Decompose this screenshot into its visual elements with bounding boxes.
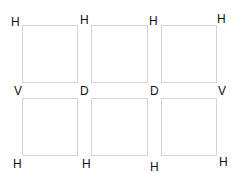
box-r1-c2 (91, 25, 148, 83)
box-r2-c2 (91, 98, 148, 156)
label-top-2: H (80, 14, 89, 26)
label-mid-2: D (80, 85, 89, 97)
label-mid-3: D (150, 85, 159, 97)
box-r2-c1 (22, 98, 78, 156)
label-bot-2: H (82, 158, 91, 170)
label-bot-3: H (150, 161, 159, 173)
label-top-3: H (149, 15, 158, 27)
box-r1-c3 (161, 25, 217, 83)
label-mid-4: V (218, 85, 226, 97)
box-r1-c1 (22, 25, 78, 83)
label-top-4: H (217, 13, 226, 25)
label-top-1: H (11, 16, 20, 28)
label-bot-4: H (219, 156, 228, 168)
box-r2-c3 (161, 98, 217, 156)
label-mid-1: V (14, 85, 22, 97)
label-bot-1: H (13, 158, 22, 170)
